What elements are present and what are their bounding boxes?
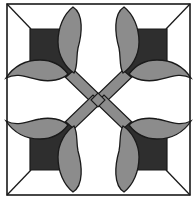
quilt-block (0, 0, 194, 200)
